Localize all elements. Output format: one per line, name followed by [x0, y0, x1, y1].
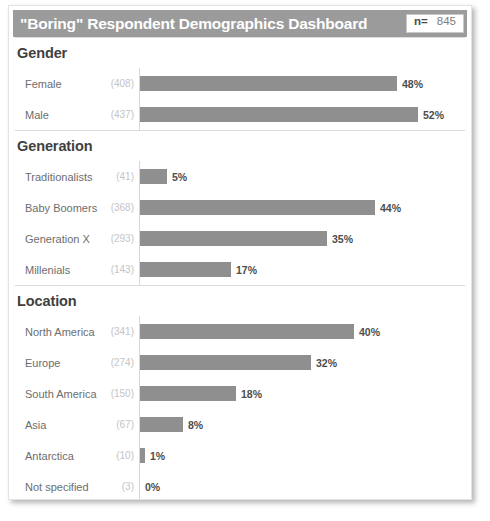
bar-value-label: 8% — [188, 419, 203, 431]
sample-size-label: n= — [414, 15, 428, 27]
section-title: Location — [9, 286, 471, 316]
bar-group: 18% — [140, 386, 262, 401]
bar[interactable] — [140, 231, 327, 246]
table-row[interactable]: Female(408)48% — [9, 68, 471, 99]
row-category-label: Antarctica — [25, 450, 74, 462]
section-gender: GenderFemale(408)48%Male(437)52% — [9, 37, 471, 130]
bar-group: 17% — [140, 262, 257, 277]
sample-size-value: 845 — [437, 15, 456, 27]
row-count-label: (143) — [69, 264, 134, 275]
bar[interactable] — [140, 107, 418, 122]
table-row[interactable]: South America(150)18% — [9, 378, 471, 409]
bar-group: 35% — [140, 231, 353, 246]
dashboard-card: "Boring" Respondent Demographics Dashboa… — [8, 5, 472, 500]
bar[interactable] — [140, 417, 183, 432]
bar-group: 5% — [140, 169, 187, 184]
bar-value-label: 35% — [332, 233, 353, 245]
table-row[interactable]: Asia(67)8% — [9, 409, 471, 440]
table-row[interactable]: Antarctica(10)1% — [9, 440, 471, 471]
rows-container: Traditionalists(41)5%Baby Boomers(368)44… — [9, 161, 471, 285]
bar-group: 8% — [140, 417, 203, 432]
bar-group: 44% — [140, 200, 401, 215]
bar-value-label: 18% — [241, 388, 262, 400]
table-row[interactable]: Traditionalists(41)5% — [9, 161, 471, 192]
bar-value-label: 17% — [236, 264, 257, 276]
row-count-label: (67) — [69, 419, 134, 430]
row-category-label: Asia — [25, 419, 46, 431]
bar-group: 0% — [140, 479, 160, 494]
bar[interactable] — [140, 200, 375, 215]
bar-value-label: 1% — [150, 450, 165, 462]
row-category-label: Male — [25, 109, 49, 121]
sample-size-badge: n= 845 — [406, 14, 464, 33]
table-row[interactable]: Not specified(3)0% — [9, 471, 471, 500]
bar-value-label: 32% — [316, 357, 337, 369]
table-row[interactable]: North America(341)40% — [9, 316, 471, 347]
row-category-label: Female — [25, 78, 62, 90]
section-title: Gender — [9, 38, 471, 68]
row-count-label: (293) — [69, 233, 134, 244]
sections-container: GenderFemale(408)48%Male(437)52%Generati… — [9, 37, 471, 500]
dashboard-header: "Boring" Respondent Demographics Dashboa… — [13, 10, 467, 37]
row-count-label: (10) — [69, 450, 134, 461]
bar-value-label: 44% — [380, 202, 401, 214]
bar-value-label: 48% — [402, 78, 423, 90]
table-row[interactable]: Europe(274)32% — [9, 347, 471, 378]
bar-value-label: 40% — [359, 326, 380, 338]
bar[interactable] — [140, 324, 354, 339]
row-count-label: (408) — [69, 78, 134, 89]
section-location: LocationNorth America(341)40%Europe(274)… — [9, 285, 471, 500]
bar-group: 1% — [140, 448, 165, 463]
section-generation: GenerationTraditionalists(41)5%Baby Boom… — [9, 130, 471, 285]
row-count-label: (3) — [69, 481, 134, 492]
rows-container: Female(408)48%Male(437)52% — [9, 68, 471, 130]
row-count-label: (368) — [69, 202, 134, 213]
bar-group: 32% — [140, 355, 337, 370]
row-count-label: (341) — [69, 326, 134, 337]
bar-value-label: 52% — [423, 109, 444, 121]
bar[interactable] — [140, 76, 397, 91]
bar-value-label: 0% — [145, 481, 160, 493]
bar[interactable] — [140, 448, 145, 463]
bar-value-label: 5% — [172, 171, 187, 183]
table-row[interactable]: Male(437)52% — [9, 99, 471, 130]
bar[interactable] — [140, 386, 236, 401]
table-row[interactable]: Generation X(293)35% — [9, 223, 471, 254]
table-row[interactable]: Millenials(143)17% — [9, 254, 471, 285]
row-count-label: (437) — [69, 109, 134, 120]
table-row[interactable]: Baby Boomers(368)44% — [9, 192, 471, 223]
rows-container: North America(341)40%Europe(274)32%South… — [9, 316, 471, 500]
bar[interactable] — [140, 169, 167, 184]
row-category-label: Europe — [25, 357, 60, 369]
row-count-label: (150) — [69, 388, 134, 399]
bar[interactable] — [140, 355, 311, 370]
row-count-label: (274) — [69, 357, 134, 368]
bar-group: 48% — [140, 76, 423, 91]
section-title: Generation — [9, 131, 471, 161]
bar-group: 52% — [140, 107, 444, 122]
page-title: "Boring" Respondent Demographics Dashboa… — [13, 15, 367, 33]
bar[interactable] — [140, 262, 231, 277]
row-count-label: (41) — [69, 171, 134, 182]
bar-group: 40% — [140, 324, 380, 339]
row-category-label: Millenials — [25, 264, 70, 276]
